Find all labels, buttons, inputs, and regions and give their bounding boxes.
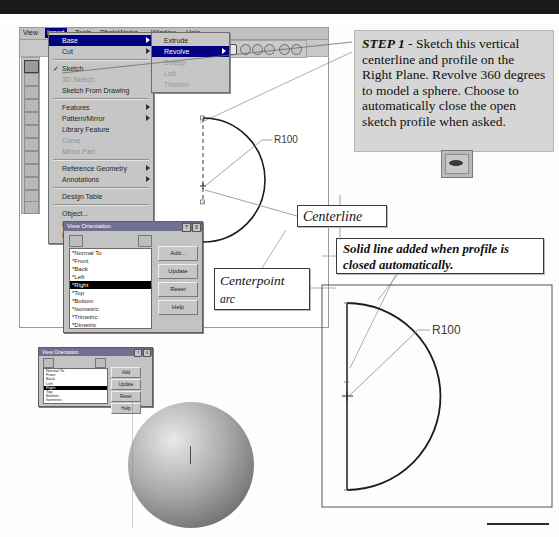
radius-leader xyxy=(205,140,262,186)
centerline-leader xyxy=(205,190,297,216)
solid-note-leader xyxy=(378,274,398,300)
centerpoint-arc-leader xyxy=(262,230,286,268)
sphere-silhouette-line xyxy=(132,402,133,528)
right-sketch-frame xyxy=(322,285,552,507)
sphere-axis-mark xyxy=(190,446,191,464)
right-sketch-geometry: R100 xyxy=(322,285,552,507)
solid-note-leader2 xyxy=(350,274,396,368)
origin-marker-right xyxy=(342,391,353,401)
page-footer-rule xyxy=(487,523,549,525)
radius-leader-right xyxy=(349,330,418,396)
sketch-overlay: R100 R100 xyxy=(0,0,559,537)
sphere-model xyxy=(128,402,254,528)
radius-dimension-left: R100 xyxy=(274,134,298,145)
leader-line xyxy=(200,52,352,123)
leader-line xyxy=(62,42,352,73)
origin-marker xyxy=(200,183,206,189)
left-sketch-geometry: R100 xyxy=(200,116,298,242)
profile-arc-right xyxy=(347,303,440,490)
radius-dimension-right: R100 xyxy=(432,323,461,337)
